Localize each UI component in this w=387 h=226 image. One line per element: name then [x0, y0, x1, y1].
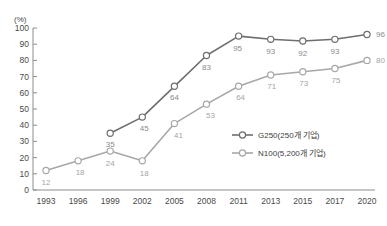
x-tick-label: 2017: [325, 196, 344, 206]
y-tick-label: 0: [24, 185, 29, 195]
data-label: 93: [266, 47, 275, 56]
data-point: [332, 36, 338, 42]
data-label: 64: [170, 93, 179, 102]
y-tick-label: 90: [20, 39, 30, 49]
x-tick-label: 2005: [165, 196, 184, 206]
x-tick-label: 2020: [358, 196, 377, 206]
data-label: 41: [174, 131, 183, 140]
y-tick-label: 10: [20, 169, 30, 179]
chart-svg: (%) 0102030405060708090100 1993199619992…: [0, 0, 387, 226]
legend-label: G250(250개 기업): [258, 130, 320, 140]
data-label: 45: [140, 124, 149, 133]
line-chart: (%) 0102030405060708090100 1993199619992…: [0, 0, 387, 226]
data-point: [268, 36, 274, 42]
legend-label: N100(5,200개 기업): [258, 148, 326, 158]
data-point: [332, 65, 338, 71]
data-point: [300, 38, 306, 44]
data-point: [203, 101, 209, 107]
y-tick-label: 100: [15, 23, 29, 33]
data-label: 71: [267, 82, 276, 91]
data-point: [364, 31, 370, 37]
data-labels-layer: 3545648395939293961218241841536471737580: [42, 30, 386, 186]
y-tick-label: 50: [20, 104, 30, 114]
data-point: [364, 57, 370, 63]
data-point: [236, 83, 242, 89]
data-label: 92: [298, 49, 307, 58]
data-label: 83: [202, 63, 211, 72]
data-label: 18: [140, 169, 149, 178]
data-point: [203, 52, 209, 58]
data-point: [107, 130, 113, 136]
y-tick-label: 60: [20, 88, 30, 98]
data-label: 75: [331, 76, 340, 85]
y-tick-label: 30: [20, 136, 30, 146]
x-tick-label: 2015: [293, 196, 312, 206]
data-label: 80: [376, 56, 385, 65]
legend-item: N100(5,200개 기업): [232, 148, 326, 158]
data-point: [268, 72, 274, 78]
y-tick-label: 70: [20, 72, 30, 82]
legend-item: G250(250개 기업): [232, 130, 320, 140]
legend: G250(250개 기업)N100(5,200개 기업): [232, 130, 326, 158]
data-label: 73: [299, 79, 308, 88]
data-point: [75, 158, 81, 164]
x-tick-label: 2011: [229, 196, 248, 206]
data-label: 93: [330, 47, 339, 56]
data-point: [139, 114, 145, 120]
data-label: 64: [236, 93, 245, 102]
x-tick-label: 1999: [101, 196, 120, 206]
data-point: [139, 158, 145, 164]
data-label: 96: [376, 30, 385, 39]
x-tick-label: 2002: [133, 196, 152, 206]
x-axis-ticks: 1993199619992002200520082011201320152017…: [37, 196, 377, 206]
x-tick-label: 1993: [37, 196, 56, 206]
data-label: 18: [76, 168, 85, 177]
x-tick-label: 2013: [261, 196, 280, 206]
data-point: [236, 33, 242, 39]
data-point: [43, 167, 49, 173]
data-label: 95: [233, 44, 242, 53]
data-point: [171, 83, 177, 89]
legend-marker-icon: [239, 150, 245, 156]
y-axis-ticks: 0102030405060708090100: [15, 23, 37, 195]
y-tick-label: 20: [20, 153, 30, 163]
data-label: 24: [106, 159, 115, 168]
x-tick-label: 1996: [69, 196, 88, 206]
data-label: 12: [42, 178, 51, 187]
y-tick-label: 80: [20, 55, 30, 65]
legend-marker-icon: [239, 132, 245, 138]
data-label: 35: [106, 140, 115, 149]
data-label: 53: [206, 111, 215, 120]
data-point: [171, 120, 177, 126]
x-tick-label: 2008: [197, 196, 216, 206]
data-point: [300, 69, 306, 75]
y-tick-label: 40: [20, 120, 30, 130]
